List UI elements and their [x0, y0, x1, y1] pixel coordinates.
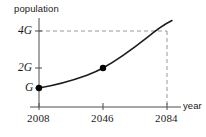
- population-growth-chart: population year 4G 2G G 2008 2046 2084: [0, 0, 206, 137]
- data-point-2008: [36, 85, 42, 91]
- x-tick-label-2008: 2008: [27, 113, 50, 124]
- y-tick-label-2g: 2G: [18, 62, 32, 74]
- data-point-2046: [100, 65, 106, 71]
- y-tick-label-g: G: [25, 82, 33, 94]
- x-tick-label-2046: 2046: [91, 113, 114, 124]
- y-tick-label-4g: 4G: [18, 25, 32, 37]
- y-axis-label: population: [14, 4, 59, 14]
- x-axis-label: year: [183, 101, 202, 111]
- x-tick-label-2084: 2084: [155, 113, 178, 124]
